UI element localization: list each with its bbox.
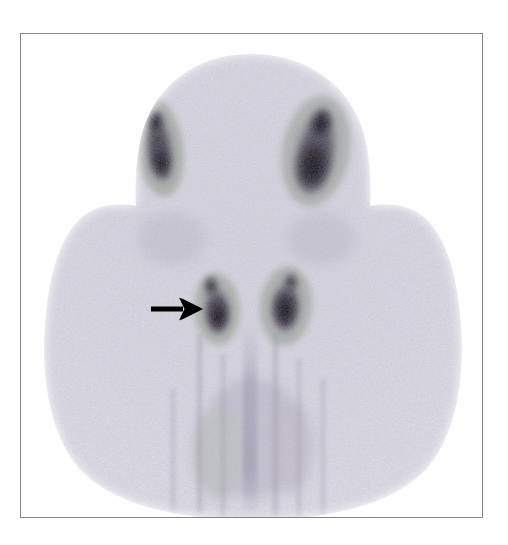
scintigraphy-image-frame	[20, 33, 483, 518]
scintigram-image	[21, 34, 482, 517]
figure-caption	[0, 0, 1, 1]
figure-root	[0, 0, 508, 545]
scan-canvas	[21, 34, 482, 517]
